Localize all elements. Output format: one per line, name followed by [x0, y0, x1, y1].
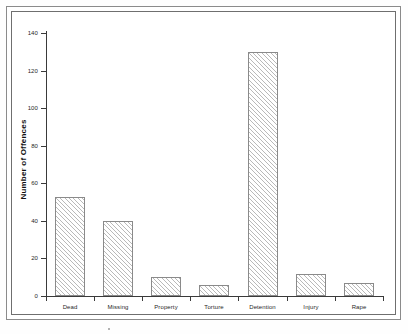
x-tick-label-detention: Detention — [238, 304, 287, 310]
x-tick-boundary-4 — [238, 296, 239, 301]
x-tick-boundary-1 — [94, 296, 95, 301]
y-tick-label-140: 140 — [8, 30, 38, 36]
x-tick-boundary-6 — [335, 296, 336, 301]
y-tick-20 — [41, 258, 46, 259]
bar-property — [151, 277, 181, 296]
bar-detention — [248, 52, 278, 296]
y-tick-label-40: 40 — [8, 218, 38, 224]
y-tick-100 — [41, 108, 46, 109]
y-tick-label-0: 0 — [8, 293, 38, 299]
y-tick-80 — [41, 146, 46, 147]
bar-dead — [55, 197, 85, 296]
bar-missing — [103, 221, 133, 296]
x-tick-label-torture: Torture — [190, 304, 238, 310]
x-axis-line — [46, 296, 384, 297]
x-tick-boundary-3 — [190, 296, 191, 301]
x-tick-boundary-0 — [46, 296, 47, 301]
bar-torture — [199, 285, 229, 296]
x-tick-label-rape: Rape — [335, 304, 383, 310]
y-tick-60 — [41, 183, 46, 184]
y-tick-label-80: 80 — [8, 143, 38, 149]
y-tick-label-60: 60 — [8, 180, 38, 186]
y-tick-label-100: 100 — [8, 105, 38, 111]
scan-artifact-speck — [108, 328, 110, 330]
y-axis-line — [46, 31, 47, 297]
x-tick-boundary-2 — [142, 296, 143, 301]
bar-rape — [344, 283, 374, 296]
x-tick-label-missing: Missing — [94, 304, 142, 310]
y-tick-140 — [41, 33, 46, 34]
x-tick-boundary-7 — [383, 296, 384, 301]
x-tick-label-dead: Dead — [46, 304, 94, 310]
x-tick-boundary-5 — [287, 296, 288, 301]
x-tick-label-injury: Injury — [287, 304, 335, 310]
y-tick-label-20: 20 — [8, 255, 38, 261]
y-tick-label-120: 120 — [8, 68, 38, 74]
y-axis-title: Number of Offences — [19, 100, 28, 220]
x-tick-label-property: Property — [142, 304, 190, 310]
chart-page: Number of Offences 0 20 40 60 80 100 120… — [0, 0, 408, 334]
y-tick-40 — [41, 221, 46, 222]
bar-injury — [296, 274, 326, 297]
y-tick-120 — [41, 71, 46, 72]
